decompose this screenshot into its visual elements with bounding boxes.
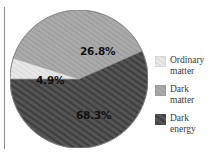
slice-label-dark-energy: 68.3% (76, 109, 111, 121)
dark-matter-swatch-icon (155, 85, 166, 96)
legend-label-line2: matter (170, 66, 204, 77)
legend-label-line2: energy (170, 124, 196, 135)
pie-svg (10, 10, 148, 148)
legend-label-line1: Dark (170, 84, 194, 95)
slice-label-dark-matter: 26.8% (80, 45, 115, 57)
ordinary-matter-swatch-icon (155, 56, 166, 67)
dark-energy-swatch-icon (155, 114, 166, 125)
pie-chart-figure: 26.8% 4.9% 68.3% Ordinary matter (0, 0, 222, 155)
legend-label-ordinary-matter: Ordinary matter (170, 55, 204, 76)
legend-label-dark-energy: Dark energy (170, 113, 196, 134)
legend-item-ordinary-matter: Ordinary matter (155, 55, 222, 76)
legend-item-dark-energy: Dark energy (155, 113, 222, 134)
chart-legend: Ordinary matter Dark matter (155, 55, 222, 142)
legend-item-dark-matter: Dark matter (155, 84, 222, 105)
slice-label-ordinary-matter: 4.9% (36, 74, 64, 86)
pie-chart: 26.8% 4.9% 68.3% (10, 10, 148, 148)
legend-label-line1: Ordinary (170, 55, 204, 66)
legend-label-dark-matter: Dark matter (170, 84, 194, 105)
legend-label-line2: matter (170, 95, 194, 106)
legend-label-line1: Dark (170, 113, 196, 124)
figure-left-rule (4, 7, 5, 149)
